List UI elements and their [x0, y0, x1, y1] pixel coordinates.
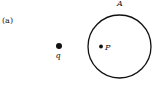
point-label: P	[104, 43, 111, 52]
surface-label: A	[116, 0, 123, 8]
charge-dot	[56, 43, 62, 49]
diagram: (a) A q P	[0, 0, 156, 91]
gaussian-surface-circle	[88, 15, 151, 78]
panel-label: (a)	[2, 16, 13, 25]
charge-label: q	[56, 51, 61, 60]
point-dot	[99, 45, 103, 49]
